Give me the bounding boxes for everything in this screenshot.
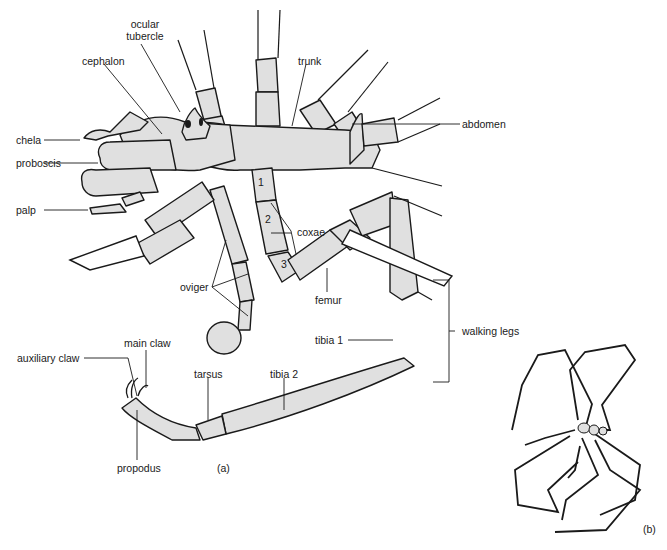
label-oviger: oviger (180, 281, 209, 293)
label-palp: palp (16, 204, 36, 216)
propodus (122, 398, 200, 440)
label-chela: chela (16, 134, 41, 146)
label-tibia-1: tibia 1 (315, 334, 343, 346)
leg-upper-2b (256, 92, 280, 126)
label-coxa-3: 3 (281, 258, 287, 270)
label-coxae: coxae (297, 226, 325, 238)
leg-upper-2 (256, 58, 278, 92)
label-main-claw: main claw (124, 337, 171, 349)
sea-spider-diagram: ocular tubercle cephalon trunk abdomen c… (0, 0, 667, 550)
proboscis (98, 140, 176, 170)
label-proboscis: proboscis (16, 157, 61, 169)
label-ocular-tubercle-line1: ocular (120, 18, 170, 30)
label-walking-legs: walking legs (462, 325, 519, 337)
coxa-1 (252, 168, 276, 202)
anatomy-illustration (0, 0, 667, 550)
coxa-2 (256, 200, 288, 254)
label-coxa-1: 1 (258, 176, 264, 188)
tibia-1 (390, 198, 418, 300)
label-trunk: trunk (298, 55, 321, 67)
label-coxa-2: 2 (265, 213, 271, 225)
label-panel-a: (a) (217, 462, 230, 474)
label-propodus: propodus (117, 462, 161, 474)
palp (90, 204, 126, 214)
label-tarsus: tarsus (194, 368, 223, 380)
label-auxiliary-claw: auxiliary claw (17, 352, 79, 364)
oviger-coil (207, 322, 241, 354)
label-abdomen: abdomen (462, 118, 506, 130)
oviger (210, 186, 248, 264)
label-femur: femur (315, 294, 342, 306)
tarsus (196, 416, 226, 440)
label-tibia-2: tibia 2 (270, 368, 298, 380)
label-ocular-tubercle-line2: tubercle (118, 30, 172, 42)
label-cephalon: cephalon (82, 55, 125, 67)
label-panel-b: (b) (643, 523, 656, 535)
tibia-2 (222, 358, 414, 434)
